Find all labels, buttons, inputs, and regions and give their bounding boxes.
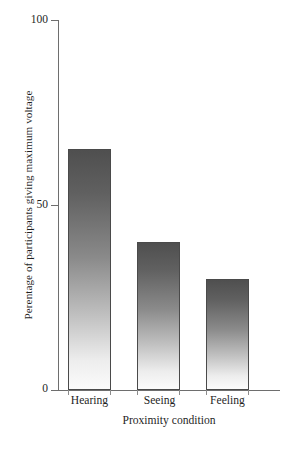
x-axis-title: Proximity condition [58, 414, 280, 427]
x-category-label-feeling: Feeling [196, 394, 259, 408]
bar-chart-figure: Perentage of participants giving maximum… [0, 0, 283, 454]
x-category-label-seeing: Seeing [128, 394, 191, 408]
bar-feeling [206, 279, 249, 390]
y-axis-line [58, 20, 59, 391]
y-tick-label-50: 50 [8, 199, 48, 211]
y-tick-mark-100 [51, 20, 58, 21]
y-tick-mark-50 [51, 205, 58, 206]
bar-hearing [68, 149, 111, 389]
y-tick-label-100: 100 [8, 14, 48, 26]
x-category-label-hearing: Hearing [58, 394, 121, 408]
y-tick-label-0: 0 [8, 383, 48, 395]
x-axis-line [58, 390, 280, 391]
y-tick-mark-0 [51, 390, 58, 391]
bar-seeing [137, 242, 180, 390]
